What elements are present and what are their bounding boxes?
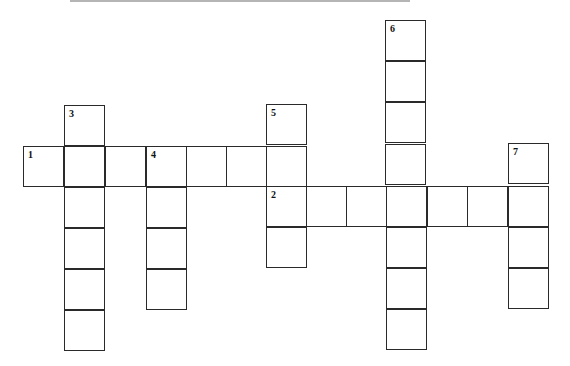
top-rule [70,0,410,2]
crossword-cell[interactable] [146,269,187,310]
clue-number: 1 [28,150,33,160]
crossword-cell[interactable] [186,146,227,187]
clue-number: 2 [271,190,276,200]
clue-number: 5 [271,108,276,118]
crossword-cell[interactable] [266,146,307,187]
crossword-cell-6[interactable]: 6 [385,20,426,61]
crossword-cell-7[interactable]: 7 [508,143,549,184]
crossword-cell[interactable] [508,186,549,227]
crossword-cell[interactable] [64,310,105,351]
crossword-cell-2[interactable]: 2 [266,186,307,227]
clue-number: 7 [513,147,518,157]
clue-number: 6 [390,24,395,34]
crossword-cell[interactable] [385,102,426,143]
clue-number: 4 [151,150,156,160]
crossword-cell[interactable] [386,186,427,227]
crossword-cell[interactable] [306,186,347,227]
crossword-cell-5[interactable]: 5 [266,104,307,145]
crossword-cell[interactable] [64,146,105,187]
clue-number: 3 [69,109,74,119]
crossword-cell-1[interactable]: 1 [23,146,64,187]
crossword-cell[interactable] [386,309,427,350]
crossword-cell[interactable] [64,228,105,269]
crossword-cell[interactable] [64,187,105,228]
crossword-cell-3[interactable]: 3 [64,105,105,146]
crossword-cell-4[interactable]: 4 [146,146,187,187]
crossword-cell[interactable] [508,268,549,309]
crossword-cell[interactable] [146,228,187,269]
crossword-cell[interactable] [386,227,427,268]
crossword-cell[interactable] [64,269,105,310]
crossword-cell[interactable] [508,227,549,268]
crossword-cell[interactable] [386,268,427,309]
crossword-cell[interactable] [266,227,307,268]
crossword-cell[interactable] [427,186,468,227]
crossword-cell[interactable] [105,146,146,187]
crossword-cell[interactable] [467,186,508,227]
crossword-cell[interactable] [385,144,426,185]
crossword-cell[interactable] [146,187,187,228]
crossword-cell[interactable] [226,146,267,187]
crossword-cell[interactable] [346,186,387,227]
crossword-cell[interactable] [385,61,426,102]
